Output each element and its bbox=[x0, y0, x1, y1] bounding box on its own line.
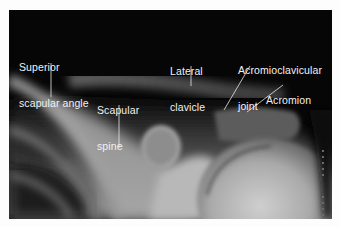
label-lateral-clavicle: Lateral clavicle bbox=[170, 41, 205, 125]
label-line-1: Superior bbox=[19, 61, 89, 73]
label-line-2: clavicle bbox=[170, 101, 205, 113]
label-line-1: Acromion bbox=[266, 94, 311, 106]
label-line-2: scapular angle bbox=[19, 97, 89, 109]
label-acromion: Acromion bbox=[266, 70, 311, 118]
label-line-1: Lateral bbox=[170, 65, 205, 77]
label-line-2: spine bbox=[97, 140, 139, 152]
label-superior-scapular-angle: Superior scapular angle bbox=[19, 37, 89, 121]
label-scapular-spine: Scapular spine bbox=[97, 80, 139, 164]
label-line-1: Scapular bbox=[97, 104, 139, 116]
